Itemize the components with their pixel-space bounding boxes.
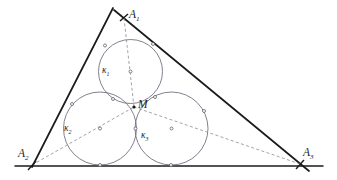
cevian-lines	[32, 18, 300, 165]
point-center-k1	[129, 70, 132, 73]
edge-right-side	[114, 10, 309, 171]
geometry-figure: A1 A2 A3 M κ1 κ2 κ3	[0, 0, 337, 180]
label-vertex-a3-sub: 3	[310, 153, 314, 161]
label-circle-kappa-3: κ3	[141, 131, 149, 143]
edge-left-side	[32, 8, 113, 167]
triangle-edges	[15, 8, 323, 171]
point-t-k1-k2	[112, 98, 115, 101]
label-vertex-a1: A1	[129, 9, 140, 23]
label-center-m: M	[138, 99, 148, 111]
point-t-k3-right	[203, 110, 206, 113]
point-t-k2-base	[99, 164, 102, 167]
point-t-k2-left	[71, 103, 74, 106]
label-vertex-a1-name: A	[129, 8, 136, 20]
label-vertex-a1-sub: 1	[136, 15, 140, 23]
cevian-a3-m	[134, 107, 300, 164]
inscribed-circles	[64, 40, 209, 166]
label-vertex-a2-sub: 2	[25, 154, 29, 162]
cevian-a1-m	[124, 18, 134, 107]
point-t-k1-left	[104, 44, 107, 47]
label-circle-kappa-1: κ1	[102, 66, 110, 78]
point-t-k2-k3	[134, 127, 137, 130]
point-t-k1-right	[152, 43, 155, 46]
label-vertex-a3-name: A	[303, 146, 310, 158]
center-point-marker	[132, 105, 135, 108]
label-circle-kappa-2: κ2	[64, 124, 72, 136]
point-center-k3	[170, 127, 173, 130]
point-t-k3-base	[170, 164, 173, 167]
label-vertex-a2-name: A	[18, 147, 25, 159]
label-vertex-a2: A2	[18, 148, 29, 162]
figure-canvas	[0, 0, 337, 180]
label-circle-kappa-2-sub: 2	[69, 129, 72, 135]
label-vertex-a3: A3	[303, 147, 314, 161]
point-m	[132, 105, 135, 108]
label-circle-kappa-1-sub: 1	[107, 71, 110, 77]
point-t-k1-k3	[154, 96, 157, 99]
point-center-k2	[99, 127, 102, 130]
label-center-m-name: M	[138, 98, 148, 110]
label-circle-kappa-3-sub: 3	[146, 136, 149, 142]
